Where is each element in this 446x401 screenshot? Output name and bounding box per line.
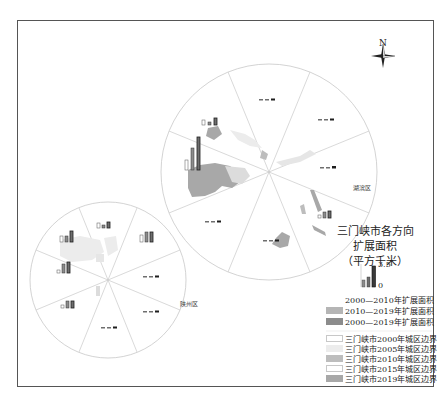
bar-group-small-ne (140, 232, 153, 242)
swatch-boundary-2005 (326, 345, 343, 352)
bar-group-small-e (143, 276, 159, 278)
bar-group-small-sw (61, 301, 74, 308)
legend-label: 2010—2019年扩展面积 (345, 305, 434, 316)
legend-item-boundary-2015: 三门峡市2015年城区边界 (326, 363, 437, 373)
scale-min-label: 0 (378, 281, 383, 290)
scale-max-label: 3.5 (378, 260, 391, 269)
legend-item-2000-2010: 2000—2010年扩展面积 (326, 294, 434, 304)
swatch-boundary-2000 (326, 335, 343, 342)
bar-group-big-west (185, 137, 200, 170)
legend-label: 2000—2010年扩展面积 (345, 294, 434, 305)
bar-group-small-s (101, 327, 117, 329)
bar-group-small-nw (60, 231, 73, 242)
legend-title-line-1: 三门峡市各方向 (335, 222, 415, 238)
legend-item-boundary-2019: 三门峡市2019年城区边界 (326, 373, 437, 383)
legend-label: 2000—2019年扩展面积 (345, 316, 434, 327)
swatch-2000-2010 (326, 296, 343, 303)
swatch-boundary-2019 (326, 375, 343, 382)
bar-group-small-n (97, 222, 110, 228)
bar-group-big-se (318, 211, 331, 218)
swatch-2010-2019 (326, 307, 343, 314)
swatch-boundary-2015 (326, 365, 343, 372)
bar-group-big-ne (318, 119, 334, 121)
legend-item-2010-2019: 2010—2019年扩展面积 (326, 305, 434, 315)
legend-item-boundary-2010: 三门峡市2010年城区边界 (326, 353, 437, 363)
bar-group-big-sw (205, 221, 221, 223)
swatch-boundary-2010 (326, 355, 343, 362)
bar-group-small-w (57, 262, 70, 273)
district-label-hubin: 湖滨区 (353, 183, 371, 192)
legend-title-line-2: 扩展面积 (335, 237, 415, 253)
bar-group-small-se (143, 311, 159, 313)
legend-title-line-3: （平方千米） (335, 252, 415, 268)
swatch-2000-2019 (326, 318, 343, 325)
bar-group-big-n (259, 99, 275, 101)
legend-item-boundary-2005: 三门峡市2005年城区边界 (326, 343, 437, 353)
legend-label: 三门峡市2019年城区边界 (345, 373, 437, 384)
bar-group-big-s (263, 240, 279, 242)
district-label-shanzhou: 陕州区 (180, 299, 198, 308)
north-label: N (379, 38, 387, 48)
bar-group-big-nw (202, 118, 217, 125)
legend-item-2000-2019: 2000—2019年扩展面积 (326, 316, 434, 326)
legend-item-boundary-2000: 三门峡市2000年城区边界 (326, 333, 437, 343)
bar-group-big-e (320, 166, 336, 169)
